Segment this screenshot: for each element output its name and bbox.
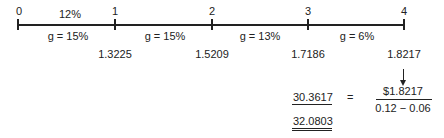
period-3: 3 [305, 5, 311, 17]
dividend-4: 1.8217 [387, 48, 421, 60]
discount-rate: 12% [59, 8, 81, 20]
total-double-underline-1 [292, 128, 332, 129]
growth-label-3: g = 13% [240, 30, 281, 42]
terminal-underline [292, 104, 332, 105]
dividend-3: 1.7186 [291, 48, 325, 60]
growth-label-4: g = 6% [340, 30, 375, 42]
denominator: 0.12 − 0.06 [375, 102, 430, 114]
tick-3 [307, 19, 309, 30]
tick-4 [403, 19, 405, 30]
growth-label-1: g = 15% [48, 30, 89, 42]
terminal-value: 30.3617 [293, 91, 333, 103]
tick-1 [114, 19, 116, 30]
period-0: 0 [16, 5, 22, 17]
total-value: 32.0803 [293, 115, 333, 127]
period-2: 2 [209, 5, 215, 17]
tick-0 [17, 19, 19, 30]
dividend-1: 1.3225 [98, 48, 132, 60]
period-1: 1 [112, 5, 118, 17]
tick-2 [211, 19, 213, 30]
fraction-bar [376, 99, 432, 100]
growth-label-2: g = 15% [145, 30, 186, 42]
numerator: $1.8217 [383, 85, 423, 97]
dividend-2: 1.5209 [195, 48, 229, 60]
total-double-underline-2 [292, 130, 332, 131]
period-4: 4 [401, 5, 407, 17]
equals-sign: = [347, 91, 353, 103]
